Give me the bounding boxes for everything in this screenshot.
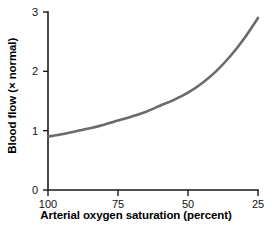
chart-figure: 0 1 2 3 100 75 50 25 Arterial oxygen sat… xyxy=(0,0,272,232)
x-tick-label-25: 25 xyxy=(252,199,264,210)
y-axis-title-wrap: Blood flow (× normal) xyxy=(2,0,24,192)
y-tick-label-1: 1 xyxy=(24,125,38,136)
y-tick-label-3: 3 xyxy=(24,7,38,18)
x-axis-title: Arterial oxygen saturation (percent) xyxy=(0,210,272,222)
blood-flow-curve xyxy=(48,18,258,137)
y-axis-title: Blood flow (× normal) xyxy=(7,38,19,154)
y-tick-label-2: 2 xyxy=(24,66,38,77)
y-tick-label-0: 0 xyxy=(24,185,38,196)
